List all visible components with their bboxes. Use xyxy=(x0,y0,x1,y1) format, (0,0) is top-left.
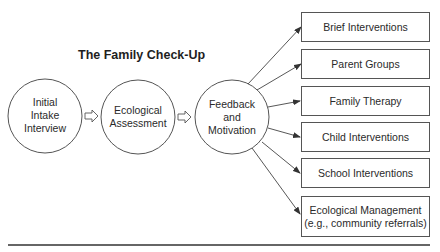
box-label: Family Therapy xyxy=(329,95,401,108)
box-label: School Interventions xyxy=(318,167,413,180)
hollow-arrow-icon xyxy=(85,110,98,122)
hollow-arrow-icon xyxy=(178,111,191,123)
label-line: Motivation xyxy=(197,124,267,137)
label-line: Intake xyxy=(10,109,80,122)
box-label: Child Interventions xyxy=(322,131,409,144)
outcome-box-school-interventions: School Interventions xyxy=(301,158,430,188)
outcome-box-brief-interventions: Brief Interventions xyxy=(301,12,430,42)
label-line: Feedback xyxy=(197,98,267,111)
label-line: Interview xyxy=(10,122,80,135)
connector-arrow xyxy=(268,128,300,137)
outcome-box-child-interventions: Child Interventions xyxy=(301,122,430,152)
box-label: Brief Interventions xyxy=(323,21,408,34)
label-line: Initial xyxy=(10,96,80,109)
outcome-box-ecological-management: Ecological Management (e.g., community r… xyxy=(301,196,430,237)
label-line: Assessment xyxy=(103,117,173,130)
bottom-rule xyxy=(8,244,430,246)
diagram-title: The Family Check-Up xyxy=(78,48,205,62)
box-label: Ecological Management xyxy=(309,204,421,217)
box-label: (e.g., community referrals) xyxy=(304,217,427,230)
connector-arrow xyxy=(248,27,301,84)
outcome-box-parent-groups: Parent Groups xyxy=(301,49,430,79)
connector-arrow xyxy=(268,101,300,107)
step-label-feedback: Feedback and Motivation xyxy=(197,98,267,137)
connector-arrow xyxy=(252,148,300,214)
box-label: Parent Groups xyxy=(331,58,399,71)
label-line: Ecological xyxy=(103,104,173,117)
connector-arrow xyxy=(262,142,300,173)
label-line: and xyxy=(197,111,267,124)
step-label-assessment: Ecological Assessment xyxy=(103,104,173,130)
step-label-intake: Initial Intake Interview xyxy=(10,96,80,135)
connector-arrow xyxy=(257,64,301,90)
outcome-box-family-therapy: Family Therapy xyxy=(301,86,430,116)
